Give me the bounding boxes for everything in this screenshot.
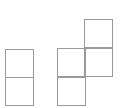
diagram-canvas bbox=[0, 0, 124, 108]
grid-cell bbox=[57, 77, 86, 106]
grid-cell bbox=[5, 49, 34, 78]
grid-cell bbox=[84, 48, 113, 77]
grid-cell bbox=[5, 77, 34, 106]
grid-cell bbox=[57, 48, 86, 77]
grid-cell bbox=[84, 19, 113, 48]
